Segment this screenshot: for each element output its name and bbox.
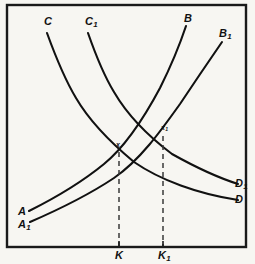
curve-label-b: B (184, 13, 192, 24)
curve-label-b1-sub: 1 (227, 32, 231, 41)
axis-label-k1-sub: 1 (166, 254, 170, 263)
curve-label-a1-text: A (18, 218, 26, 230)
intersection-label-x1: x1 (161, 124, 168, 132)
curve-label-d-text: D (235, 193, 243, 205)
intersection-label-x-text: x (116, 141, 120, 148)
curve-label-c1-sub: 1 (93, 20, 97, 29)
intersection-label-x1-sub: 1 (165, 126, 168, 132)
curve-label-c-text: C (44, 15, 52, 27)
curve-label-d1: D1 (235, 178, 248, 191)
axis-label-k: K (115, 250, 123, 261)
curve-label-b-text: B (184, 12, 192, 24)
curve-label-a: A (18, 206, 26, 217)
curve-label-c1: C1 (85, 16, 98, 29)
curve-label-a-text: A (18, 205, 26, 217)
axis-label-k1: K1 (158, 250, 171, 263)
curve-label-d: D (235, 194, 243, 205)
curve-label-c1-text: C (85, 15, 93, 27)
curve-label-c: C (44, 16, 52, 27)
axis-label-k-text: K (115, 249, 123, 261)
curve-c1 (88, 33, 238, 184)
curve-label-a1: A1 (18, 219, 31, 232)
curve-label-b1: B1 (219, 28, 232, 41)
axis-label-k1-text: K (158, 249, 166, 261)
curve-label-a1-sub: 1 (26, 223, 30, 232)
figure-frame (7, 5, 246, 247)
curve-label-d1-sub: 1 (243, 182, 247, 191)
curve-label-b1-text: B (219, 27, 227, 39)
intersection-label-x: x (116, 141, 120, 148)
curve-label-d1-text: D (235, 177, 243, 189)
diagram-canvas (0, 0, 255, 264)
figure-container: C C1 B B1 A A1 D1 D x x1 K K1 (0, 0, 255, 264)
